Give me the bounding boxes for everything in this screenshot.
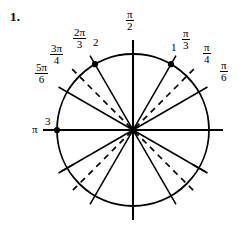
angle-label-two-pi-over-3-denominator: 3 — [76, 39, 84, 50]
point-index-2: 2 — [93, 37, 99, 48]
marked-point-3 — [54, 127, 60, 133]
angle-label-pi: π — [32, 124, 38, 135]
marked-point-1 — [168, 61, 174, 67]
angle-label-three-pi-over-4-denominator: 4 — [53, 55, 61, 66]
angle-label-pi-over-2-denominator: 2 — [126, 21, 134, 32]
angle-label-pi-over-6-denominator: 6 — [220, 72, 228, 83]
circle-tick-mark-2 — [193, 165, 205, 172]
angle-label-pi-over-4-denominator: 4 — [203, 54, 211, 65]
axis-lines-group — [43, 40, 223, 220]
unit-circle-graphic — [0, 0, 245, 232]
angle-label-two-pi-over-3: 2π 3 — [73, 27, 86, 50]
angle-label-pi-over-3: π 3 — [182, 28, 190, 51]
marked-point-2 — [92, 61, 98, 67]
circle-tick-mark-1 — [61, 165, 73, 172]
unit-circle-figure: 1. π 2 π 3 π 4 π 6 — [0, 0, 245, 232]
angle-label-three-pi-over-4: 3π 4 — [50, 43, 63, 66]
angle-label-five-pi-over-6: 5π 6 — [35, 62, 48, 85]
point-index-3: 3 — [45, 116, 51, 127]
angle-label-pi-over-3-denominator: 3 — [182, 40, 190, 51]
angle-label-pi-over-4: π 4 — [203, 42, 211, 65]
angle-label-pi-over-2: π 2 — [126, 9, 134, 32]
point-index-1: 1 — [171, 42, 177, 53]
angle-label-pi-over-6: π 6 — [220, 60, 228, 83]
angle-label-five-pi-over-6-denominator: 6 — [38, 74, 46, 85]
